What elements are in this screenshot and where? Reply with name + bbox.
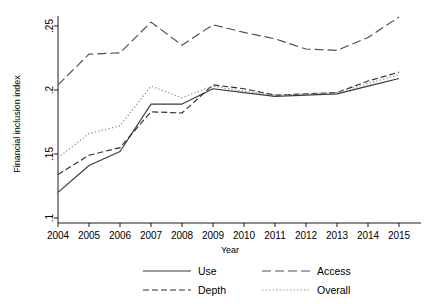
x-tick-label: 2015 — [388, 230, 411, 241]
chart-legend: UseAccessDepthOverall — [143, 265, 351, 296]
y-axis: .1.15.2.25 — [44, 16, 59, 223]
x-tick-label: 2009 — [202, 230, 225, 241]
y-tick-label: .15 — [44, 147, 55, 161]
y-tick-label: .25 — [44, 19, 55, 33]
series-line-access — [58, 17, 399, 85]
y-tick-label: .2 — [44, 85, 55, 94]
x-tick-label: 2013 — [326, 230, 349, 241]
legend-label-access: Access — [317, 265, 351, 277]
y-tick-label: .1 — [44, 213, 55, 222]
series-line-use — [58, 78, 399, 192]
x-tick-label: 2014 — [357, 230, 380, 241]
series-line-depth — [58, 72, 399, 174]
series-line-overall — [58, 75, 399, 158]
chart-figure: Financial inclusion index .1.15.2.25 200… — [0, 0, 430, 304]
legend-label-depth: Depth — [198, 284, 226, 296]
series-layer — [58, 17, 399, 192]
x-tick-label: 2004 — [47, 230, 70, 241]
x-tick-label: 2010 — [233, 230, 256, 241]
legend-label-overall: Overall — [317, 284, 350, 296]
y-axis-title: Financial inclusion index — [12, 75, 22, 173]
x-tick-label: 2012 — [295, 230, 318, 241]
financial-inclusion-line-chart: Financial inclusion index .1.15.2.25 200… — [0, 0, 430, 304]
x-tick-label: 2006 — [109, 230, 132, 241]
x-tick-label: 2007 — [140, 230, 163, 241]
legend-label-use: Use — [198, 265, 217, 277]
x-tick-label: 2011 — [264, 230, 286, 241]
x-tick-label: 2005 — [78, 230, 101, 241]
x-axis: 2004200520062007200820092010201120122013… — [47, 223, 421, 241]
x-axis-title: Year — [221, 245, 239, 255]
x-tick-label: 2008 — [171, 230, 194, 241]
